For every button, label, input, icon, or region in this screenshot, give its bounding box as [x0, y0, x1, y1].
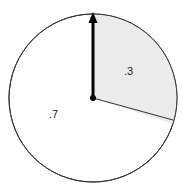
sector-label-unshaded: .7: [49, 108, 58, 120]
sector-label-shaded: .3: [124, 65, 133, 77]
pointer-pivot: [90, 95, 96, 101]
spinner-diagram: .3 .7: [0, 0, 185, 192]
